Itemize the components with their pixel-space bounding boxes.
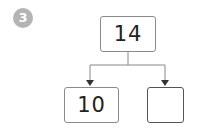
- whole-box: 14: [100, 16, 156, 52]
- part-box-answer[interactable]: [147, 87, 184, 123]
- whole-value: 14: [114, 22, 143, 46]
- arrow-down-icon: [86, 80, 94, 86]
- part-box-known: 10: [64, 87, 119, 123]
- part-value: 10: [77, 93, 106, 117]
- arrow-down-icon: [161, 80, 169, 86]
